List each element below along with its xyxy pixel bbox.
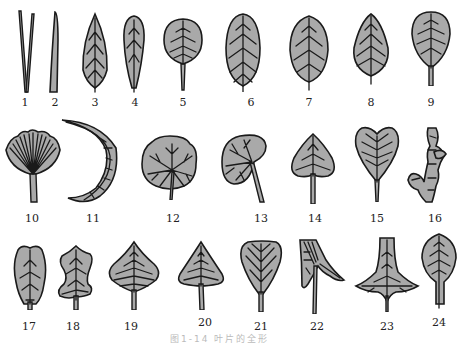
leaf-10-flabellate-icon [4,128,62,204]
leaf-8-ovate-icon [350,12,392,86]
leaf-1-needle-icon [14,8,38,94]
leaf-5-orbicular-icon [162,16,204,92]
leaf-label-11: 11 [78,212,108,225]
leaf-label-1: 1 [10,96,40,109]
leaf-12-peltate-icon [140,134,200,200]
leaf-label-18: 18 [58,320,88,333]
leaf-label-10: 10 [17,212,47,225]
leaf-label-7: 7 [294,96,324,109]
leaf-23-hastate-icon [354,236,420,312]
leaf-label-22: 22 [302,320,332,333]
leaf-17-spatulate-icon [12,244,48,310]
leaf-11-falcate-icon [60,118,120,206]
leaf-label-9: 9 [416,96,446,109]
leaf-13-reniform-icon [220,132,268,204]
leaf-label-23: 23 [372,320,402,333]
leaf-label-15: 15 [362,212,392,225]
leaf-label-13: 13 [246,212,276,225]
figure-caption: 图1-14 叶片的全形 [170,332,269,345]
leaf-label-20: 20 [190,316,220,329]
leaf-4-oblanceolate-icon [121,14,147,94]
leaf-label-12: 12 [158,212,188,225]
leaf-3-lanceolate-icon [80,12,110,94]
leaf-16-scale-like-icon [406,126,456,204]
leaf-9-obovate-icon [410,10,452,86]
leaf-label-5: 5 [168,96,198,109]
leaf-label-6: 6 [236,96,266,109]
leaf-6-oblong-icon [224,12,262,92]
leaf-label-14: 14 [300,212,330,225]
leaf-20-deltoid-icon [176,240,226,310]
leaf-24-ovate-petiolate-icon [420,232,458,310]
leaf-7-elliptic-icon [288,14,330,92]
leaf-21-cuneate-icon [238,240,284,312]
leaf-15-obcordate-icon [354,126,400,202]
leaf-label-8: 8 [356,96,386,109]
leaf-label-24: 24 [424,316,454,329]
leaf-label-2: 2 [40,96,70,109]
leaf-14-cordate-icon [288,132,338,204]
leaf-2-linear-icon [46,10,62,94]
leaf-label-3: 3 [80,96,110,109]
leaf-label-17: 17 [14,320,44,333]
leaf-18-lyrate-icon [54,244,96,310]
leaf-label-16: 16 [420,212,450,225]
leaf-19-rhomboid-icon [106,240,162,310]
leaf-label-19: 19 [116,320,146,333]
leaf-22-sagittate-icon [298,238,348,314]
leaf-label-4: 4 [120,96,150,109]
